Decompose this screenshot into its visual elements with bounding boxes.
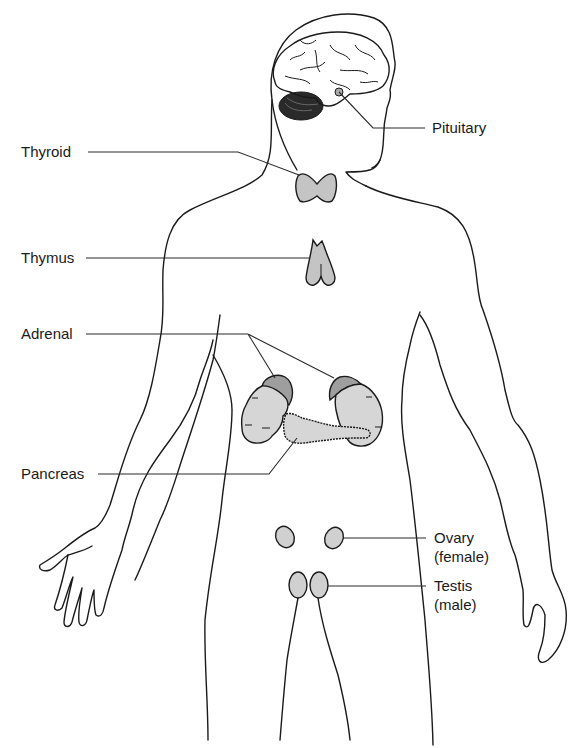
right-ovary (321, 524, 347, 552)
right-testis (310, 572, 328, 598)
label-testis: Testis (434, 577, 472, 595)
pancreas-leader (98, 438, 297, 474)
label-pituitary: Pituitary (432, 119, 486, 137)
left-arm-outer (40, 100, 272, 627)
left-ovary (272, 523, 298, 551)
right-torso-side (402, 312, 433, 745)
label-adrenal: Adrenal (21, 325, 73, 343)
label-testis-sub: (male) (434, 596, 477, 614)
thumb-crease (68, 546, 92, 555)
left-torso-side (135, 315, 220, 580)
label-thymus: Thymus (21, 249, 74, 267)
left-testis (289, 572, 307, 598)
pituitary-leader (339, 92, 425, 128)
label-thyroid: Thyroid (21, 143, 71, 161)
brain (273, 32, 389, 120)
right-leg-inner (318, 598, 350, 740)
label-ovary: Ovary (434, 529, 474, 547)
brain-folds (285, 40, 378, 90)
left-leg-inner (280, 598, 298, 740)
thyroid-gland (296, 174, 337, 202)
thyroid-leader (88, 152, 299, 175)
left-body-inner (205, 355, 232, 740)
endocrine-diagram (0, 0, 587, 748)
body-outline (40, 14, 567, 745)
thymus-gland (306, 240, 335, 285)
label-ovary-sub: (female) (434, 548, 489, 566)
left-kidney (242, 386, 288, 443)
label-pancreas: Pancreas (21, 465, 84, 483)
